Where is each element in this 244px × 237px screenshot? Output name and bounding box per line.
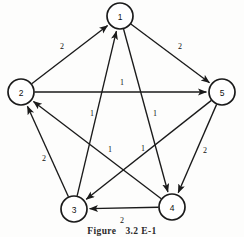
graph-edge-2-to-1 [32, 25, 108, 83]
graph-edge-3-to-2 [27, 106, 68, 196]
node-label-3: 3 [72, 205, 77, 215]
node-layer: 12534 [8, 3, 235, 222]
edge-weight-5-4: 2 [203, 146, 207, 155]
graph-node-4[interactable]: 4 [159, 194, 185, 220]
node-label-5: 5 [220, 88, 225, 98]
node-label-4: 4 [170, 203, 175, 213]
edge-weight-3-1: 1 [90, 109, 94, 118]
figure-caption: Figure3.2 E-1 [0, 226, 244, 236]
graph-node-1[interactable]: 1 [107, 3, 133, 29]
graph-edge-5-to-3 [86, 100, 211, 199]
node-label-1: 1 [118, 12, 123, 22]
graph-node-3[interactable]: 3 [61, 196, 87, 222]
edge-weight-1-5: 2 [178, 42, 182, 51]
graph-node-2[interactable]: 2 [8, 79, 34, 105]
edge-weight-layer: 2211111222 [42, 42, 207, 225]
figure-caption-label: Figure [87, 226, 116, 236]
edge-weight-2-5: 1 [120, 78, 124, 87]
directed-graph-diagram: 12534 2211111222 [0, 0, 244, 237]
graph-edge-5-to-4 [178, 104, 216, 192]
graph-edge-3-to-1 [77, 31, 116, 196]
edge-weight-2-1: 2 [60, 42, 64, 51]
node-label-2: 2 [19, 88, 24, 98]
figure-caption-number: 3.2 E-1 [125, 226, 156, 236]
edge-weight-1-4: 1 [153, 109, 157, 118]
graph-edge-1-to-4 [124, 29, 168, 192]
graph-node-5[interactable]: 5 [209, 79, 235, 105]
edge-weight-5-3: 1 [141, 144, 145, 153]
edge-weight-4-2: 1 [108, 145, 112, 154]
graph-edge-4-to-3 [90, 207, 159, 208]
graph-edge-1-to-5 [131, 24, 210, 83]
figure-container: 12534 2211111222 Figure3.2 E-1 [0, 0, 244, 237]
edge-weight-4-3: 2 [120, 216, 124, 225]
edge-weight-3-2: 2 [42, 154, 46, 163]
edge-layer [27, 24, 216, 209]
